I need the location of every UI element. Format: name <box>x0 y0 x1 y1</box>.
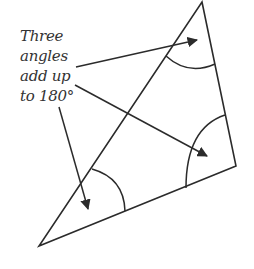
arrow-to-right-angle <box>75 85 207 156</box>
arrow-to-top-angle <box>76 40 197 67</box>
left-angle-arc <box>92 169 125 211</box>
angle-arcs <box>92 56 225 211</box>
label-line-1: Three <box>20 26 74 46</box>
pointer-arrows <box>59 40 207 209</box>
label-line-4: to 180° <box>20 86 74 106</box>
angle-sum-label: Three angles add up to 180° <box>20 26 74 106</box>
right-angle-arc <box>186 115 225 188</box>
top-angle-arc <box>166 56 215 69</box>
label-line-3: add up <box>20 66 74 86</box>
label-line-2: angles <box>20 46 74 66</box>
